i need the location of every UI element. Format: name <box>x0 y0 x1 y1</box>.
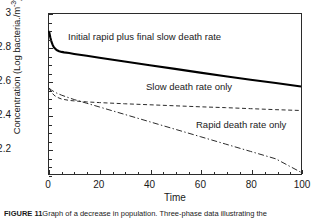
x-tick-label-100: 100 <box>282 180 318 190</box>
figure-caption: FIGURE 11Graph of a decrease in populati… <box>4 209 318 218</box>
y-axis-label-text: Concentration (Log bacteria./m <box>11 7 22 134</box>
x-tick-mark-minor <box>265 172 266 175</box>
y-tick-mark-minor <box>49 125 52 126</box>
y-tick-mark-minor <box>49 74 52 75</box>
annotation-combined-curve: Initial rapid plus final slow death rate <box>68 31 221 42</box>
x-tick-label-0: 0 <box>28 180 68 190</box>
x-tick-mark-minor <box>74 172 75 175</box>
y-tick-label-2.8: 2.8 <box>0 42 11 52</box>
y-tick-mark-minor <box>49 133 52 134</box>
x-tick-label-60: 60 <box>180 180 220 190</box>
y-tick-label-2.2: 2.2 <box>0 144 11 154</box>
x-tick-label-40: 40 <box>130 180 170 190</box>
figure-caption-label: FIGURE 11 <box>4 209 42 218</box>
y-tick-mark-minor <box>49 65 52 66</box>
x-tick-mark-minor <box>163 172 164 175</box>
annotation-rapid-curve: Rapid death rate only <box>196 119 286 130</box>
y-tick-mark-minor <box>49 31 52 32</box>
y-tick-mark-minor <box>49 167 52 168</box>
y-axis-label: Concentration (Log bacteria./m-3) <box>10 0 22 154</box>
x-tick-mark <box>302 170 303 174</box>
x-tick-mark-minor <box>125 172 126 175</box>
y-tick-mark-minor <box>49 99 52 100</box>
y-tick-mark-minor <box>49 40 52 41</box>
x-tick-mark-minor <box>278 172 279 175</box>
y-tick-label-2.6: 2.6 <box>0 76 11 86</box>
y-axis-label-close: ) <box>11 0 22 1</box>
x-axis-label: Time <box>48 192 302 203</box>
x-tick-mark-minor <box>62 172 63 175</box>
y-tick-mark-minor <box>49 23 52 24</box>
y-tick-mark <box>49 14 53 15</box>
x-tick-mark <box>201 170 202 174</box>
x-tick-mark-minor <box>290 172 291 175</box>
x-tick-mark <box>252 170 253 174</box>
figure-caption-text: Graph of a decrease in population. Three… <box>42 209 267 218</box>
x-tick-mark-minor <box>176 172 177 175</box>
y-tick-label-3: 3 <box>0 8 11 18</box>
y-tick-mark-minor <box>49 142 52 143</box>
y-tick-mark-minor <box>49 176 52 177</box>
x-tick-mark-minor <box>189 172 190 175</box>
x-tick-mark <box>49 170 50 174</box>
x-tick-mark-minor <box>227 172 228 175</box>
figure-container: Concentration (Log bacteria./m-3) 2.22.4… <box>0 0 318 218</box>
x-tick-mark-minor <box>214 172 215 175</box>
y-tick-mark <box>49 150 53 151</box>
x-tick-mark-minor <box>87 172 88 175</box>
y-tick-mark <box>49 48 53 49</box>
y-tick-mark <box>49 82 53 83</box>
x-tick-label-20: 20 <box>79 180 119 190</box>
y-tick-mark-minor <box>49 57 52 58</box>
curve-series-2 <box>49 88 301 172</box>
y-tick-mark-minor <box>49 108 52 109</box>
x-tick-mark-minor <box>113 172 114 175</box>
y-tick-mark-minor <box>49 91 52 92</box>
x-tick-mark-minor <box>240 172 241 175</box>
x-tick-mark <box>151 170 152 174</box>
y-tick-mark <box>49 116 53 117</box>
x-tick-mark <box>100 170 101 174</box>
x-tick-label-80: 80 <box>231 180 271 190</box>
x-tick-mark-minor <box>138 172 139 175</box>
y-tick-mark-minor <box>49 159 52 160</box>
annotation-slow-curve: Slow death rate only <box>146 81 232 92</box>
y-tick-label-2.4: 2.4 <box>0 110 11 120</box>
